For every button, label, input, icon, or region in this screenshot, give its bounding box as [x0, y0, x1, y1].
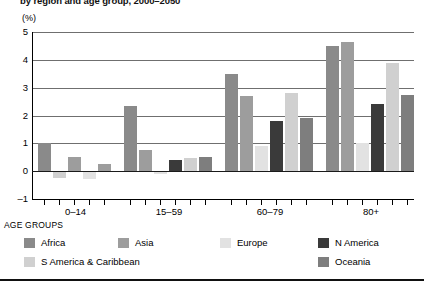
bar — [270, 121, 283, 171]
bar — [341, 42, 354, 171]
grid-line-0 — [32, 171, 414, 172]
chart-legend: AfricaAsiaEuropeN AmericaS America & Car… — [24, 237, 416, 279]
legend-label: Oceania — [335, 256, 370, 268]
y-tick-label: 3 — [2, 83, 28, 93]
legend-label: S America & Caribbean — [41, 256, 140, 268]
plot-area — [32, 32, 414, 199]
bar — [401, 95, 414, 172]
x-tick-mark — [276, 200, 277, 205]
legend-swatch-icon — [118, 238, 129, 248]
chart-title: by region and age group, 2000–2050 — [20, 0, 410, 6]
x-tick-mark — [306, 200, 307, 205]
legend-label: Europe — [237, 237, 268, 249]
legend-swatch-icon — [220, 238, 231, 248]
y-tick-label: 2 — [2, 111, 28, 121]
x-group-label-0: 0–14 — [38, 206, 113, 217]
x-tick-mark — [392, 200, 393, 205]
x-tick-mark — [130, 200, 131, 205]
x-tick-mark — [104, 200, 105, 205]
bar — [124, 106, 137, 171]
bar — [285, 93, 298, 171]
bar — [386, 63, 399, 172]
legend-swatch-icon — [24, 257, 35, 267]
y-tick-label: 5 — [2, 27, 28, 37]
bar — [199, 157, 212, 171]
x-axis-caption: AGE GROUPS — [4, 220, 63, 230]
bar — [68, 157, 81, 171]
legend-label: Africa — [41, 237, 65, 249]
x-tick-mark — [89, 200, 90, 205]
x-tick-mark — [160, 200, 161, 205]
bar — [300, 118, 313, 171]
bar — [83, 171, 96, 179]
bar — [139, 150, 152, 171]
legend-swatch-icon — [318, 238, 329, 248]
legend-swatch-icon — [24, 238, 35, 248]
x-group-label-2: 60–79 — [225, 206, 315, 217]
y-tick-label: 0 — [2, 166, 28, 176]
x-tick-mark — [246, 200, 247, 205]
x-tick-mark — [291, 200, 292, 205]
bar-series-layer — [32, 32, 414, 199]
bar — [169, 160, 182, 171]
y-axis-ticks: 543210–1 — [0, 32, 28, 200]
legend-swatch-icon — [318, 257, 329, 267]
bar — [371, 104, 384, 171]
y-tick-label: 4 — [2, 55, 28, 65]
x-tick-mark — [261, 200, 262, 205]
x-group-label-3: 80+ — [326, 206, 416, 217]
x-tick-mark — [44, 200, 45, 205]
y-axis-line — [32, 32, 33, 200]
bar — [38, 143, 51, 171]
x-tick-mark — [407, 200, 408, 205]
x-tick-mark — [377, 200, 378, 205]
bar — [225, 74, 238, 171]
x-group-label-1: 15–59 — [124, 206, 214, 217]
bar — [53, 171, 66, 178]
y-tick-label: 1 — [2, 138, 28, 148]
x-tick-mark — [332, 200, 333, 205]
bar — [356, 143, 369, 171]
x-tick-mark — [59, 200, 60, 205]
bar — [255, 146, 268, 171]
x-tick-mark — [205, 200, 206, 205]
bar — [98, 164, 111, 171]
bar — [184, 158, 197, 171]
legend-label: Asia — [135, 237, 153, 249]
bar — [326, 46, 339, 171]
legend-label: N America — [335, 237, 379, 249]
x-tick-mark — [190, 200, 191, 205]
x-tick-mark — [74, 200, 75, 205]
x-tick-mark — [347, 200, 348, 205]
bar — [240, 96, 253, 171]
chart-container: by region and age group, 2000–2050 (%) 5… — [0, 0, 424, 281]
y-tick-label: –1 — [2, 194, 28, 204]
x-tick-mark — [231, 200, 232, 205]
x-tick-mark — [362, 200, 363, 205]
y-axis-unit-label: (%) — [22, 13, 36, 23]
x-tick-mark — [145, 200, 146, 205]
x-tick-mark — [175, 200, 176, 205]
